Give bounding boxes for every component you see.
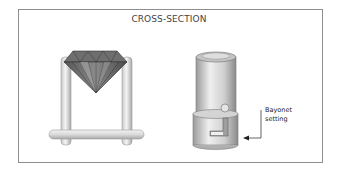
diamond-icon (64, 51, 127, 93)
label-line-1: Bayonet (265, 106, 292, 115)
prong-setting-figure (49, 51, 144, 145)
bayonet-setting-label: Bayonet setting (265, 106, 292, 123)
diagram-art (0, 0, 338, 172)
label-line-2: setting (265, 115, 292, 124)
bayonet-setting-figure (193, 52, 238, 150)
callout-arrow-icon (243, 110, 261, 141)
